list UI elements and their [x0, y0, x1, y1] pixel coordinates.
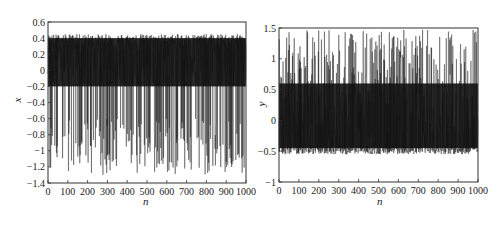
y-tick-label: 0.2 — [33, 49, 46, 60]
x-tick-label: 800 — [431, 185, 446, 196]
left-chart-panel: 010020030040050060070080090010000.60.40.… — [0, 0, 251, 227]
x-tick-label: 0 — [46, 186, 51, 197]
x-tick-label: 100 — [291, 185, 306, 196]
right-chart-panel: 010020030040050060070080090010001.510.50… — [251, 0, 502, 227]
left-ylabel: x — [11, 98, 23, 103]
right-chart-svg: 010020030040050060070080090010001.510.50… — [251, 0, 502, 227]
y-tick-label: 0 — [271, 115, 276, 126]
y-tick-label: −0.6 — [27, 113, 45, 124]
x-tick-label: 0 — [277, 185, 282, 196]
y-tick-label: −0.8 — [27, 129, 45, 140]
x-tick-label: 300 — [331, 185, 346, 196]
right-xlabel: n — [377, 195, 383, 207]
x-tick-label: 800 — [199, 186, 214, 197]
x-tick-label: 600 — [391, 185, 406, 196]
x-tick-label: 400 — [351, 185, 366, 196]
x-tick-label: 700 — [411, 185, 426, 196]
x-tick-label: 100 — [60, 186, 75, 197]
x-tick-label: 900 — [451, 185, 466, 196]
signal-trace — [48, 34, 246, 175]
y-tick-label: 1.5 — [264, 23, 277, 34]
y-tick-label: 0.5 — [264, 84, 277, 95]
x-tick-label: 400 — [120, 186, 135, 197]
x-tick-label: 200 — [80, 186, 95, 197]
y-tick-label: −1 — [265, 177, 276, 188]
y-tick-label: −0.2 — [27, 81, 45, 92]
y-tick-label: 1 — [271, 53, 276, 64]
x-tick-label: 300 — [100, 186, 115, 197]
y-tick-label: −0.5 — [258, 146, 276, 157]
left-xlabel: n — [143, 195, 149, 207]
y-tick-label: −1 — [34, 145, 45, 156]
x-tick-label: 1000 — [468, 185, 488, 196]
y-tick-label: 0.4 — [33, 33, 46, 44]
left-chart-svg: 010020030040050060070080090010000.60.40.… — [0, 0, 251, 227]
x-tick-label: 700 — [179, 186, 194, 197]
y-tick-label: −0.4 — [27, 97, 45, 108]
y-tick-label: −1.4 — [27, 178, 45, 189]
y-tick-label: 0 — [40, 65, 45, 76]
y-tick-label: −1.2 — [27, 161, 45, 172]
y-tick-label: 0.6 — [33, 17, 46, 28]
x-tick-label: 600 — [159, 186, 174, 197]
right-ylabel: y — [255, 102, 267, 107]
x-tick-label: 900 — [219, 186, 234, 197]
signal-trace — [279, 30, 478, 154]
x-tick-label: 200 — [311, 185, 326, 196]
